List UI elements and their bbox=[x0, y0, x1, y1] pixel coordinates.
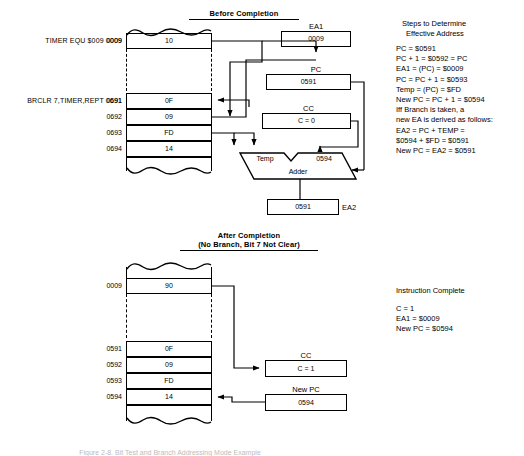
bottom-notes-line-2: New PC = $0594 bbox=[396, 324, 522, 334]
figure-canvas: Before Completion 0009 TIMER EQU $009 00… bbox=[0, 0, 524, 456]
top-notes-line-2: EA1 = (PC) = $0009 bbox=[396, 64, 522, 74]
bottom-connectors bbox=[0, 228, 524, 456]
top-notes-line-7: new EA is derived as follows: bbox=[396, 115, 522, 125]
top-notes-line-3: PC = PC + 1 = $0593 bbox=[396, 75, 522, 85]
top-notes-line-0: PC = $0591 bbox=[396, 44, 522, 54]
bottom-notes-line-1: EA1 = $0009 bbox=[396, 314, 522, 324]
bottom-notes-heading: Instruction Complete bbox=[396, 286, 522, 296]
top-notes-line-5: New PC = PC + 1 = $0594 bbox=[396, 95, 522, 105]
top-notes-line-8: EA2 = PC + TEMP = bbox=[396, 126, 522, 136]
bottom-notes: Instruction Complete C = 1 EA1 = $0009 N… bbox=[396, 286, 522, 335]
top-notes-heading-line2: Effective Address bbox=[396, 29, 522, 39]
bottom-notes-line-0: C = 1 bbox=[396, 304, 522, 314]
top-notes-line-4: Temp = (PC) = $FD bbox=[396, 85, 522, 95]
top-notes-line-6: Iff Branch is taken, a bbox=[396, 105, 522, 115]
figure-caption: Figure 2-8. Bit Test and Branch Addressi… bbox=[40, 449, 300, 456]
top-notes: Steps to Determine Effective Address PC … bbox=[396, 19, 522, 156]
top-notes-line-1: PC + 1 = $0592 = PC bbox=[396, 54, 522, 64]
top-notes-line-9: $0594 + $FD = $0591 bbox=[396, 136, 522, 146]
top-notes-line-10: New PC = EA2 = $0591 bbox=[396, 146, 522, 156]
top-notes-heading-line1: Steps to Determine bbox=[396, 19, 522, 29]
